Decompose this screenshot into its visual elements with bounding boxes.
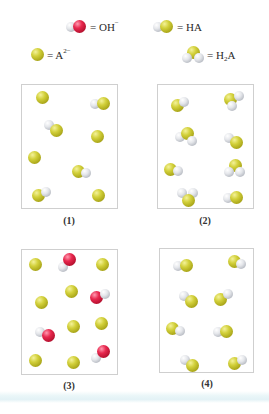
panel-3 bbox=[21, 249, 118, 375]
panel-2-label: (2) bbox=[185, 215, 225, 226]
panel-3-label: (3) bbox=[49, 380, 89, 391]
panel-2 bbox=[157, 84, 254, 209]
a2-ion-icon bbox=[31, 48, 44, 61]
panel-1 bbox=[21, 84, 118, 209]
page-edge-band bbox=[0, 391, 269, 403]
legend-ha-label: = HA bbox=[177, 21, 202, 33]
panel-4-label: (4) bbox=[187, 378, 227, 389]
ha-molecule-icon bbox=[153, 20, 174, 33]
panel-4 bbox=[159, 248, 254, 373]
hydroxide-icon bbox=[66, 20, 87, 33]
h2a-molecule-icon bbox=[182, 46, 204, 63]
legend-hydroxide-label: = OH− bbox=[90, 21, 119, 33]
panel-1-label: (1) bbox=[49, 215, 89, 226]
legend-hydroxide: = OH− bbox=[66, 20, 119, 33]
legend-a2-label: = A2− bbox=[47, 49, 71, 61]
legend-ha: = HA bbox=[153, 20, 202, 33]
legend-h2a: = H2A bbox=[182, 46, 235, 63]
legend-h2a-label: = H2A bbox=[207, 49, 235, 61]
legend-a2: = A2− bbox=[31, 48, 71, 61]
